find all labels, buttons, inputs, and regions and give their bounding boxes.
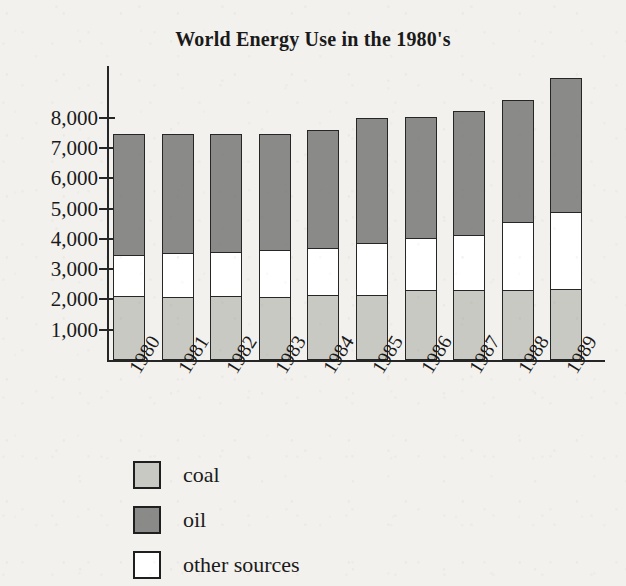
bar-segment-other[interactable] — [307, 248, 339, 297]
y-axis-tick-label: 7,000 — [20, 137, 98, 158]
legend-item-oil[interactable]: oil — [133, 497, 300, 542]
bar-1986[interactable] — [405, 117, 437, 360]
bar-1987[interactable] — [453, 111, 485, 360]
legend-item-other[interactable]: other sources — [133, 542, 300, 586]
bar-segment-other[interactable] — [210, 252, 242, 298]
legend-swatch-coal — [133, 461, 161, 489]
chart-legend: coaloilother sources — [133, 452, 300, 586]
bar-segment-oil[interactable] — [502, 100, 534, 224]
bar-segment-other[interactable] — [550, 212, 582, 291]
y-axis-tick-label: 1,000 — [20, 319, 98, 340]
bar-segment-other[interactable] — [405, 238, 437, 292]
bar-segment-other[interactable] — [259, 250, 291, 298]
bar-1985[interactable] — [356, 118, 388, 360]
y-axis-tick-label: 6,000 — [20, 168, 98, 189]
y-axis-line — [107, 66, 109, 362]
y-axis-tick-label: 3,000 — [20, 259, 98, 280]
bar-segment-oil[interactable] — [210, 134, 242, 253]
legend-label: other sources — [183, 554, 300, 576]
bar-segment-oil[interactable] — [550, 78, 582, 213]
bar-1981[interactable] — [162, 134, 194, 360]
legend-label: oil — [183, 509, 206, 531]
bar-segment-oil[interactable] — [307, 130, 339, 250]
bar-segment-other[interactable] — [502, 222, 534, 291]
y-axis-tick-label: 5,000 — [20, 198, 98, 219]
legend-swatch-other — [133, 551, 161, 579]
legend-swatch-oil — [133, 506, 161, 534]
y-axis-tick — [99, 117, 115, 119]
bar-1988[interactable] — [502, 100, 534, 360]
legend-item-coal[interactable]: coal — [133, 452, 300, 497]
y-axis-tick-label: 8,000 — [20, 107, 98, 128]
y-axis-tick-label: 2,000 — [20, 289, 98, 310]
bar-segment-other[interactable] — [453, 235, 485, 292]
bar-segment-other[interactable] — [113, 255, 145, 298]
plot-area: 1,0002,0003,0004,0005,0006,0007,0008,000… — [0, 0, 626, 586]
bar-segment-other[interactable] — [356, 243, 388, 297]
bar-1983[interactable] — [259, 134, 291, 360]
bar-segment-oil[interactable] — [405, 117, 437, 239]
bar-segment-oil[interactable] — [113, 134, 145, 256]
bar-segment-oil[interactable] — [356, 118, 388, 245]
y-axis-tick-label: 4,000 — [20, 228, 98, 249]
bar-1982[interactable] — [210, 134, 242, 360]
bar-segment-oil[interactable] — [259, 134, 291, 252]
bar-1989[interactable] — [550, 78, 582, 360]
bar-segment-oil[interactable] — [162, 134, 194, 254]
bar-segment-other[interactable] — [162, 253, 194, 298]
bar-1980[interactable] — [113, 134, 145, 360]
legend-label: coal — [183, 464, 220, 486]
bar-1984[interactable] — [307, 130, 339, 360]
bar-segment-oil[interactable] — [453, 111, 485, 236]
